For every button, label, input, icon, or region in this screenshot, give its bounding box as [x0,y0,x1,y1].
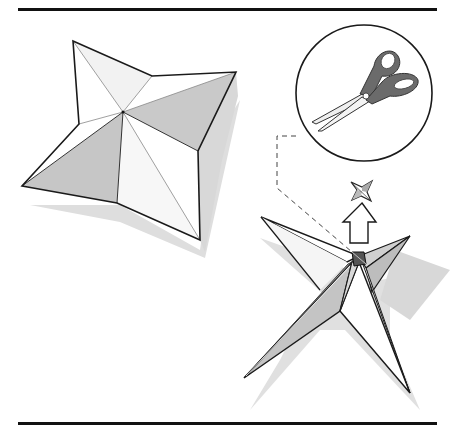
up-arrow-icon [343,203,376,243]
flat-star [22,41,240,258]
scissors-callout [296,25,432,161]
folded-star [244,217,450,410]
diagram-svg [0,0,455,440]
top-rule [18,8,437,11]
bottom-rule [18,422,437,425]
small-star-icon [351,181,372,201]
instruction-figure [0,0,455,440]
